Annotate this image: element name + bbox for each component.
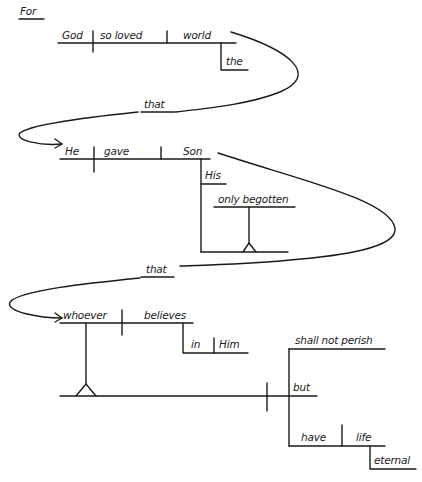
word-eternal: eternal bbox=[374, 454, 410, 466]
word-god: God bbox=[62, 29, 83, 41]
word-that-2: that bbox=[146, 263, 167, 275]
word-in: in bbox=[191, 338, 200, 350]
arrowhead-1 bbox=[55, 139, 62, 148]
connector-curve-1 bbox=[176, 32, 298, 112]
word-world: world bbox=[183, 29, 211, 41]
word-his: His bbox=[205, 169, 221, 181]
word-only-begotten: only begotten bbox=[218, 193, 289, 205]
word-shall-not-perish: shall not perish bbox=[295, 334, 373, 346]
word-life: life bbox=[356, 431, 371, 443]
subject-tripod bbox=[76, 384, 96, 396]
word-him: Him bbox=[219, 338, 239, 350]
word-believes: believes bbox=[144, 309, 186, 321]
connector-curve-1b bbox=[19, 112, 138, 144]
word-whoever: whoever bbox=[63, 309, 107, 321]
word-he: He bbox=[65, 145, 79, 157]
word-that-1: that bbox=[144, 98, 165, 110]
word-have: have bbox=[301, 431, 326, 443]
word-for: For bbox=[20, 5, 36, 17]
only-begotten-tripod bbox=[243, 243, 256, 252]
sentence-diagram: For God so loved world the that He gave … bbox=[0, 0, 422, 482]
diagram-lines bbox=[0, 0, 422, 482]
word-gave: gave bbox=[104, 145, 129, 157]
word-so-loved: so loved bbox=[100, 29, 142, 41]
word-but: but bbox=[293, 381, 310, 393]
word-son: Son bbox=[183, 145, 202, 157]
word-the: the bbox=[226, 55, 243, 67]
